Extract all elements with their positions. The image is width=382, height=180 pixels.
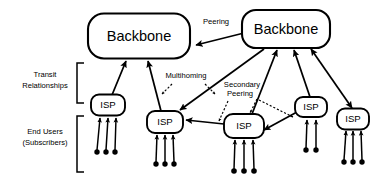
subscriber-dot <box>313 147 318 152</box>
subscriber-dot <box>251 168 257 174</box>
subscribers-isp-5 <box>341 131 364 165</box>
side-label-endusers-line2: (Subscribers) <box>22 138 68 147</box>
annotation-secondary-peering-line1: Secondary <box>224 80 261 89</box>
subscribers-isp-2 <box>153 135 176 167</box>
node-backbone-left[interactable]: Backbone <box>88 14 190 59</box>
subscriber-dot <box>341 159 346 164</box>
subscriber-dot <box>162 161 167 166</box>
isp-3-label: ISP <box>236 120 251 131</box>
isp-5-label: ISP <box>345 113 360 124</box>
end-users-bracket <box>77 116 84 172</box>
subscriber-dot <box>241 168 247 174</box>
subscriber-dot <box>303 147 308 152</box>
subscriber-dot <box>112 149 117 154</box>
subscriber-dot <box>359 159 364 164</box>
edge-isp2-to-backbone-left <box>148 61 161 111</box>
isp-2-label: ISP <box>157 116 172 127</box>
subscriber-dot <box>350 159 355 164</box>
subscribers-isp-1 <box>94 118 117 155</box>
transit-relationships-bracket <box>77 63 84 103</box>
node-isp-2[interactable]: ISP <box>147 111 183 133</box>
isp-1-label: ISP <box>100 99 115 110</box>
node-backbone-right[interactable]: Backbone <box>242 10 330 48</box>
node-isp-5[interactable]: ISP <box>337 109 369 130</box>
network-topology-diagram: Backbone Backbone ISP ISP ISP ISP ISP Pe… <box>0 0 382 180</box>
side-label-transit-line2: Relationships <box>22 81 68 90</box>
subscriber-dot <box>94 149 99 154</box>
subscribers-isp-4 <box>303 120 318 153</box>
pointer-secondary-peering-right <box>259 100 293 117</box>
backbone-right-label: Backbone <box>254 21 319 37</box>
node-isp-3[interactable]: ISP <box>224 114 264 138</box>
edge-peering-backbones <box>196 32 248 45</box>
edge-isp3-to-isp2 <box>186 120 224 124</box>
subscribers-isp-3 <box>231 140 257 174</box>
subscriber-dot <box>231 168 237 174</box>
edge-isp4-to-backbone-right <box>294 50 310 97</box>
annotation-secondary-peering-line2: Peering <box>227 89 253 98</box>
edge-isp1-to-backbone-left <box>112 61 126 95</box>
node-isp-4[interactable]: ISP <box>295 97 327 117</box>
isp-4-label: ISP <box>303 101 318 112</box>
subscriber-dot <box>171 161 176 166</box>
annotation-peering: Peering <box>203 17 229 26</box>
edge-isp4-to-isp3 <box>264 112 297 130</box>
annotation-multihoming: Multihoming <box>166 71 207 80</box>
node-isp-1[interactable]: ISP <box>91 95 125 116</box>
pointer-multihoming-left <box>162 84 172 94</box>
side-label-endusers-line1: End Users <box>27 127 63 136</box>
backbone-left-label: Backbone <box>107 28 172 44</box>
diagram-canvas: Backbone Backbone ISP ISP ISP ISP ISP Pe… <box>0 0 382 180</box>
side-label-transit-line1: Transit <box>34 70 58 79</box>
subscriber-dot <box>103 149 108 154</box>
subscriber-dot <box>153 161 158 166</box>
